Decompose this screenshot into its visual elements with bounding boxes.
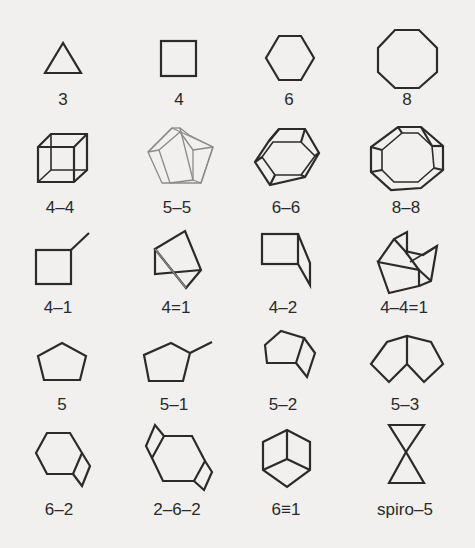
shape-square [161,41,196,76]
label-8: 8 [352,90,462,110]
label-5-2: 5–2 [228,395,338,415]
ring-structure-diagram: 3 4 6 8 4–4 5–5 6–6 8–8 4–1 4=1 4–2 4–4=… [0,0,475,548]
label-8-8: 8–8 [351,198,461,218]
shape-fused-square-bent [262,234,310,285]
shape-pentagon [38,343,86,380]
label-6-6: 6–6 [231,198,341,218]
shape-square-with-branch [36,233,89,284]
shape-triangle [45,43,81,73]
shape-bicyclo-hexagon-bridged [263,430,310,487]
label-5-1: 5–1 [119,395,229,415]
label-spiro-5: spiro–5 [350,500,460,520]
label-4-4: 4–4 [5,198,115,218]
shape-hexagonal-prism [255,129,319,185]
shape-tricyclic-cage [378,232,437,293]
shape-hexagon-two-squares [146,425,212,490]
shape-pentagonal-prism [148,128,213,183]
shape-hexagon-fused-square [36,433,90,486]
label-4: 4 [124,90,234,110]
label-6-2: 6–2 [4,500,114,520]
shape-bicyclobutane-bridged [155,231,201,288]
label-5-3: 5–3 [350,395,460,415]
label-2-6-2: 2–6–2 [122,500,232,520]
shape-fused-pentagons [371,336,443,382]
shape-pentagon-with-branch [144,342,212,381]
label-5: 5 [7,395,117,415]
label-4-1: 4–1 [3,298,113,318]
shape-hexagon [266,36,314,80]
label-6-triple-1: 6≡1 [231,500,341,520]
label-5-5: 5–5 [122,198,232,218]
label-4=1: 4=1 [121,298,231,318]
label-6: 6 [234,90,344,110]
label-3: 3 [8,90,118,110]
shapes-canvas [0,0,475,548]
shape-cube-prism [38,134,87,182]
shape-pentagon-fused-square [265,331,315,377]
label-4-2: 4–2 [228,298,338,318]
label-4-4=1: 4–4=1 [349,298,459,318]
shape-octagon [378,30,437,88]
shape-spiro-triangles [389,425,424,483]
shape-octagonal-prism [371,127,443,190]
